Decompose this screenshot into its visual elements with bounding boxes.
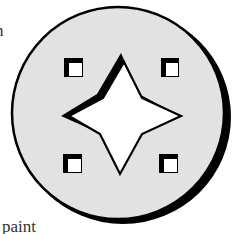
star-emblem-illustration [0,0,235,234]
square-bottom-left [63,154,82,173]
square-top-left [64,58,83,77]
square-top-right [161,58,179,77]
text-fragment-bottom: paint [2,218,36,234]
square-bottom-right [159,154,178,173]
